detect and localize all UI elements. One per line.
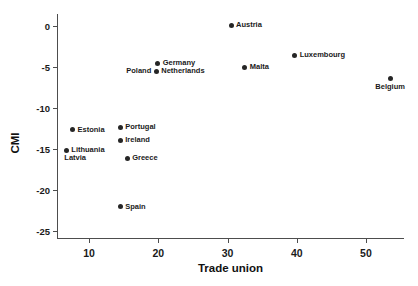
x-axis-tick xyxy=(366,238,367,243)
y-axis-tick xyxy=(53,231,58,232)
y-axis-tick-label: -15 xyxy=(36,144,50,155)
x-axis-tick xyxy=(158,238,159,243)
data-point-marker[interactable] xyxy=(64,148,69,153)
data-point-marker[interactable] xyxy=(154,69,159,74)
x-axis-tick-label: 50 xyxy=(360,247,372,259)
y-axis-tick-label: -20 xyxy=(36,185,50,196)
data-point-marker[interactable] xyxy=(155,61,160,66)
x-axis-title: Trade union xyxy=(57,262,404,274)
data-point-marker[interactable] xyxy=(118,204,123,209)
x-axis-tick xyxy=(228,238,229,243)
data-point-label: Estonia xyxy=(78,126,105,134)
y-axis-tick xyxy=(53,149,58,150)
data-point-marker[interactable] xyxy=(292,53,297,58)
data-point-label: Latvia xyxy=(64,154,86,162)
data-point-label: Luxembourg xyxy=(300,51,345,59)
x-axis-tick-label: 30 xyxy=(222,247,234,259)
x-axis-tick-label: 10 xyxy=(83,247,95,259)
data-point-marker[interactable] xyxy=(229,23,234,28)
data-point-marker[interactable] xyxy=(118,125,123,130)
y-axis-title-text: CMI xyxy=(9,132,21,153)
y-axis-tick-label: -5 xyxy=(42,62,50,73)
data-point-marker[interactable] xyxy=(125,156,130,161)
data-point-label: Ireland xyxy=(125,136,150,144)
x-axis-tick-label: 20 xyxy=(152,247,164,259)
scatter-plot-figure: CMI 0-5-10-15-20-251020304050AustriaLuxe… xyxy=(0,0,418,286)
y-axis-title: CMI xyxy=(6,0,24,286)
y-axis-tick xyxy=(53,108,58,109)
y-axis-tick xyxy=(53,26,58,27)
data-point-label: Spain xyxy=(125,203,145,211)
data-point-marker[interactable] xyxy=(388,76,393,81)
y-axis-tick-label: -10 xyxy=(36,103,50,114)
data-point-marker[interactable] xyxy=(70,127,75,132)
data-point-marker[interactable] xyxy=(242,65,247,70)
data-point-label: Malta xyxy=(250,63,269,71)
data-point-label: Austria xyxy=(236,22,262,30)
y-axis-tick xyxy=(53,190,58,191)
data-point-label: Belgium xyxy=(375,83,405,91)
y-axis-tick-label: -25 xyxy=(36,226,50,237)
data-point-label: Poland xyxy=(126,67,151,75)
data-point-label: Portugal xyxy=(125,123,155,131)
data-point-marker[interactable] xyxy=(118,138,123,143)
y-axis-tick xyxy=(53,67,58,68)
plot-area: 0-5-10-15-20-251020304050AustriaLuxembou… xyxy=(57,14,404,239)
x-axis-tick xyxy=(297,238,298,243)
x-axis-tick-label: 40 xyxy=(291,247,303,259)
data-point-label: Greece xyxy=(132,154,157,162)
data-point-label: Netherlands xyxy=(161,67,204,75)
y-axis-tick-label: 0 xyxy=(45,21,50,32)
x-axis-tick xyxy=(89,238,90,243)
